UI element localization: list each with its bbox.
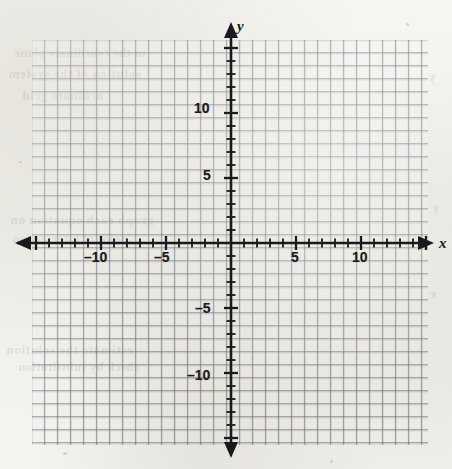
y-tick-label--10: –10 <box>187 368 210 382</box>
scan-speck <box>330 460 333 463</box>
x-tick-label-10: 10 <box>352 250 368 264</box>
grid-lines-secondary <box>32 40 428 445</box>
scan-speck <box>19 161 22 163</box>
y-tick-label--5: –5 <box>195 301 211 315</box>
y-tick-label-10: 10 <box>194 101 210 115</box>
x-tick-label-5: 5 <box>291 250 299 264</box>
x-tick-label--5: –5 <box>154 250 170 264</box>
ghost-text: y <box>432 200 439 216</box>
x-axis-label: x <box>439 236 447 251</box>
y-tick-label-5: 5 <box>203 168 211 182</box>
scan-speck <box>63 452 67 455</box>
y-axis-arrow-up <box>224 22 238 38</box>
x-tick-label--10: –10 <box>84 250 107 264</box>
coordinate-grid-figure: in the coordinate planesolution of the s… <box>0 0 452 469</box>
y-axis-label: y <box>237 19 244 34</box>
x-axis-arrow-left <box>15 236 31 250</box>
ghost-text: y <box>428 70 436 86</box>
graph-plate <box>32 40 428 445</box>
scan-speck <box>406 23 409 26</box>
ghost-text: x <box>430 286 437 302</box>
